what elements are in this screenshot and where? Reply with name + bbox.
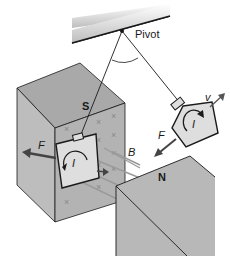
svg-text:×: × <box>111 111 116 121</box>
force-arrowhead-right <box>154 148 163 157</box>
svg-text:×: × <box>96 117 101 127</box>
pendulum-rod-right <box>122 31 180 103</box>
velocity-arrowhead-right <box>218 93 225 101</box>
swing-angle-arc <box>112 58 138 63</box>
north-pole-label: N <box>158 171 166 183</box>
pivot-label: Pivot <box>135 28 159 40</box>
current-label-left: I <box>72 157 75 169</box>
force-label-right: F <box>158 129 166 141</box>
svg-text:×: × <box>111 164 116 174</box>
svg-text:×: × <box>64 124 69 134</box>
svg-text:×: × <box>64 197 69 207</box>
svg-text:×: × <box>111 130 116 140</box>
south-pole-label: S <box>82 100 89 112</box>
diagram-canvas: Pivot S × × × × × × × × × × × × B <box>0 0 230 275</box>
velocity-label: v <box>205 91 212 103</box>
field-b-label: B <box>128 146 135 158</box>
current-label-right: I <box>192 118 195 130</box>
